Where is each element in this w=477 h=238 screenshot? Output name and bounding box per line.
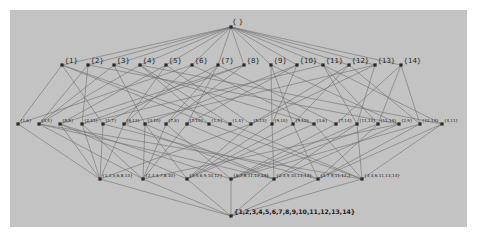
lattice-node-r4: {2,3,4,7,8,10} [141, 173, 176, 181]
edge-r2-r3 [323, 65, 378, 124]
lattice-node-r2: {11} [321, 57, 343, 67]
node-marker [141, 177, 144, 180]
edge-r2-r3 [18, 65, 192, 124]
node-marker [360, 177, 363, 180]
node-label: {7} [221, 57, 234, 65]
lattice-node-r3: {1,6} [16, 118, 32, 126]
node-label: { } [232, 18, 243, 26]
node-label: {1,4} [232, 118, 244, 123]
node-label: {1,7,9,11,12,} [320, 173, 351, 178]
lattice-node-r3: {3,10} [143, 118, 161, 126]
edge-r4-bottom [143, 179, 231, 216]
node-label: {9,12} [295, 118, 309, 123]
node-label: {5,8} [62, 118, 74, 123]
lattice-node-r3: {7,10} [185, 118, 203, 126]
node-marker [373, 63, 376, 66]
lattice-node-r2: {12} [347, 57, 369, 67]
lattice-node-r3: {1,4} [207, 118, 223, 126]
edge-r2-r3 [82, 65, 323, 124]
lattice-node-r4: {1,7,9,11,12,} [316, 173, 351, 181]
node-marker [190, 63, 193, 66]
node-marker [60, 63, 63, 66]
node-label: {14} [404, 57, 422, 65]
edge-r2-r3 [82, 65, 244, 124]
node-marker [98, 177, 101, 180]
node-label: {3,4} [41, 118, 53, 123]
node-marker [272, 177, 275, 180]
lattice-node-r3: {1,4} [228, 118, 244, 126]
node-label: {12} [352, 57, 370, 65]
edge-r2-r3 [218, 65, 336, 124]
node-label: {7,8} [168, 118, 180, 123]
lattice-node-r2: {4} [138, 57, 155, 67]
edge-r2-r3 [336, 65, 401, 124]
node-label: {3,5,6,9,10,12} [189, 173, 223, 178]
edge-r2-r3 [114, 65, 314, 124]
node-marker [295, 63, 298, 66]
node-marker [229, 177, 232, 180]
lattice-node-r2: {6} [190, 57, 207, 67]
lattice-node-r3: {9,10} [270, 118, 288, 126]
node-label: {1,2,5,6,8,13} [102, 173, 133, 178]
node-label: {2,9} [401, 118, 413, 123]
edge-r2-r3 [323, 65, 357, 124]
lattice-node-r3: {7,14} [334, 118, 352, 126]
lattice-node-r3: {4,11} [440, 118, 458, 126]
node-label: {8} [247, 57, 260, 65]
lattice-node-r3: {11,14} [376, 118, 397, 126]
node-label: {1,7} [105, 118, 117, 123]
edge-r3-r4 [362, 124, 442, 179]
edge-r2-r3 [62, 65, 103, 124]
edge-top-r2 [88, 27, 231, 65]
edge-r2-r3 [39, 65, 140, 124]
node-label: {12,14} [422, 118, 439, 123]
node-label: {3,4,6,11,13,14} [364, 173, 400, 178]
lattice-node-r3: {7,8} [164, 118, 180, 126]
node-label: {3,10} [147, 118, 161, 123]
lattice-node-top: { } [229, 18, 243, 29]
node-marker [86, 63, 89, 66]
node-marker [216, 63, 219, 66]
edge-r2-r3 [145, 65, 297, 124]
node-label: {9,10} [274, 118, 288, 123]
edge-r3-r4 [60, 124, 100, 179]
node-label: {11,14} [380, 118, 397, 123]
node-label: {4} [143, 57, 156, 65]
edge-r2-r3 [39, 65, 88, 124]
edge-r2-r3 [166, 65, 218, 124]
lattice-node-r4: {2,3,9,10,13,14} [272, 173, 312, 181]
edges-layer [18, 27, 442, 216]
node-label: {6} [195, 57, 208, 65]
edge-r3-r4 [100, 124, 124, 179]
node-label: {1,4} [211, 118, 223, 123]
edge-r2-r3 [124, 65, 375, 124]
node-marker [399, 63, 402, 66]
node-label: {9} [274, 57, 287, 65]
edge-r4-bottom [100, 179, 231, 216]
node-label: {11,13} [359, 118, 376, 123]
lattice-diagram: { }{1}{2}{3}{4}{5}{6}{7}{8}{9}{10}{11}{1… [0, 0, 477, 238]
lattice-node-r4: {3,5,6,9,10,12} [185, 173, 222, 181]
lattice-node-r3: {3,6} [312, 118, 328, 126]
edge-r3-r4 [39, 124, 274, 179]
node-marker [229, 214, 232, 217]
lattice-node-r2: {10} [295, 57, 317, 67]
node-marker [112, 63, 115, 66]
lattice-node-r2: {9} [269, 57, 286, 67]
edge-r2-r3 [18, 65, 62, 124]
node-label: {13} [378, 57, 396, 65]
node-label: {5,13} [253, 118, 267, 123]
lattice-node-r3: {1,7} [101, 118, 117, 126]
node-label: {3} [117, 57, 130, 65]
edge-top-r2 [231, 27, 297, 65]
node-marker [138, 63, 141, 66]
lattice-node-r2: {5} [164, 57, 181, 67]
edge-r2-r3 [60, 65, 166, 124]
edge-r3-r4 [60, 124, 231, 179]
node-label: {6,13} [126, 118, 140, 123]
node-label: {5,7,8,11,12,14} [233, 173, 269, 178]
edge-r3-r4 [143, 124, 399, 179]
edge-r2-r3 [293, 65, 349, 124]
lattice-node-r3: {5,13} [249, 118, 267, 126]
lattice-node-r3: {2,9} [397, 118, 413, 126]
